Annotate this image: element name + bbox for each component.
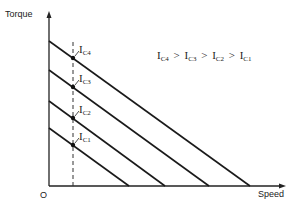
marker-ic4 xyxy=(71,56,75,60)
marker-ic3 xyxy=(71,85,75,89)
x-axis-arrow-icon xyxy=(279,184,286,189)
label-ic3: IC3 xyxy=(79,72,91,86)
marker-ic1 xyxy=(71,143,75,147)
marker-ic2 xyxy=(71,116,75,120)
label-ic2: IC2 xyxy=(79,103,91,117)
y-axis-arrow-icon xyxy=(47,11,52,18)
origin-label: O xyxy=(40,190,47,200)
y-axis-label: Torque xyxy=(5,9,33,19)
curve-labels: IC4IC3IC2IC1 xyxy=(75,43,91,144)
line-ic2 xyxy=(49,101,165,186)
current-relation: IC4 > IC3 > IC2 > IC1 xyxy=(157,49,252,63)
x-axis-label: Speed xyxy=(258,189,284,199)
label-ic1: IC1 xyxy=(79,130,91,144)
label-ic4: IC4 xyxy=(79,43,91,57)
torque-speed-diagram: Torque Speed O IC4IC3IC2IC1 IC4 > IC3 > … xyxy=(0,0,296,206)
